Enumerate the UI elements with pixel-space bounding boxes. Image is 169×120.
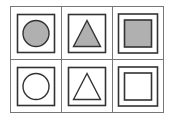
grid-cell [119, 67, 158, 106]
grid-cell [69, 68, 106, 106]
empty-circle-shape [23, 74, 49, 100]
empty-square-shape [125, 73, 152, 100]
filled-square-shape [125, 20, 152, 47]
filled-circle-shape [23, 21, 49, 47]
grid-cell [18, 15, 55, 53]
grid-cell [69, 15, 106, 53]
grid-cell [119, 14, 158, 53]
filled-triangle-shape [74, 21, 101, 47]
shape-grid [0, 0, 169, 120]
empty-triangle-shape [74, 74, 101, 100]
grid-cell [18, 68, 55, 106]
